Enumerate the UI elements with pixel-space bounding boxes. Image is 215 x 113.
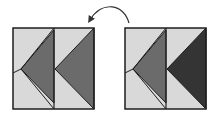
rotation-diagram (0, 0, 215, 113)
right-block (125, 28, 206, 109)
left-block (13, 28, 94, 109)
curved-arrow-icon (90, 7, 129, 23)
